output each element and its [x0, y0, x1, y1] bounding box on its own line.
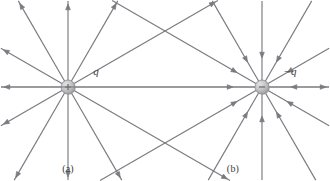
- field-arrow-head: [221, 174, 227, 179]
- field-arrow-head: [66, 4, 71, 10]
- field-arrow-head: [243, 112, 248, 118]
- field-line: [1, 90, 63, 126]
- field-arrow-head: [3, 119, 9, 124]
- field-arrow-head: [20, 3, 25, 9]
- charge-label-b: −q: [284, 65, 297, 77]
- caption-panel-b: (b): [203, 163, 263, 174]
- field-line: [18, 1, 65, 82]
- field-arrow-head: [277, 112, 282, 118]
- field-line: [1, 48, 63, 84]
- field-arrow-head: [277, 56, 282, 62]
- panel-b-field-lines: −q: [1, 1, 329, 181]
- field-arrow-head: [227, 85, 233, 90]
- caption-panel-a: (a): [38, 163, 98, 174]
- field-arrow-head: [291, 85, 297, 90]
- field-arrow-head: [111, 3, 116, 9]
- field-line: [267, 48, 329, 84]
- field-arrow-head: [115, 171, 120, 177]
- field-line: [267, 90, 329, 126]
- field-arrow-head: [16, 171, 21, 177]
- field-line: [212, 1, 259, 82]
- field-arrow-head: [231, 102, 237, 107]
- field-arrow-head: [231, 68, 237, 73]
- field-arrow-head: [287, 102, 293, 107]
- charge-label-a: q: [93, 65, 99, 77]
- field-arrow-head: [260, 52, 265, 58]
- panel-a-field-lines: q: [1, 1, 329, 181]
- field-lines-canvas: q −q: [0, 0, 330, 181]
- electric-field-figure: q −q (a) (b): [0, 0, 330, 181]
- field-arrow-head: [260, 116, 265, 122]
- field-arrow-head: [3, 50, 9, 55]
- field-arrow-head: [243, 56, 248, 62]
